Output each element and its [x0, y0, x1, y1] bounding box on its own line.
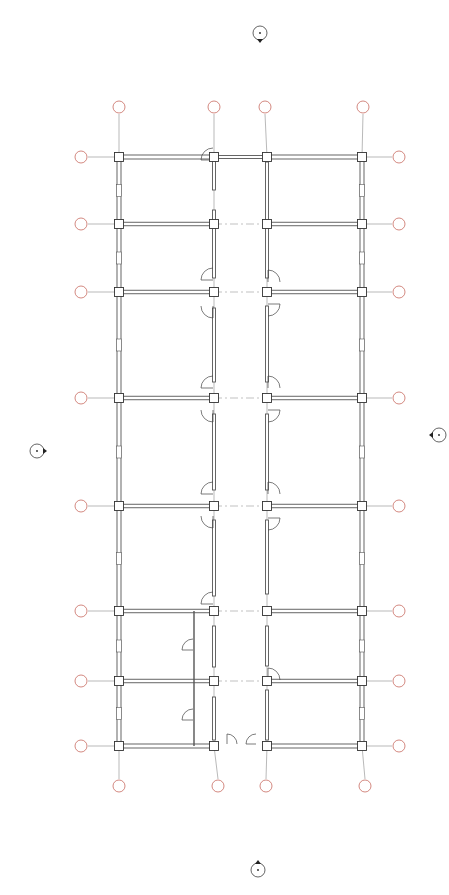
column: [115, 288, 124, 297]
wall: [267, 504, 362, 508]
column: [210, 742, 219, 751]
door-swing: [201, 306, 213, 318]
wall: [119, 679, 214, 683]
wall: [214, 156, 267, 159]
grid-bubble: [212, 780, 224, 792]
column: [358, 677, 367, 686]
wall: [267, 609, 362, 613]
window: [360, 553, 365, 565]
column: [263, 288, 272, 297]
column: [210, 394, 219, 403]
column: [358, 607, 367, 616]
wall: [266, 520, 269, 594]
grid-line-vertical: [362, 114, 363, 157]
column: [358, 502, 367, 511]
grid-bubble: [357, 101, 369, 113]
section-marker-arrow: [43, 448, 47, 454]
wall: [266, 306, 269, 382]
window: [117, 446, 122, 458]
wall: [119, 222, 214, 226]
grid-bubble: [75, 392, 87, 404]
wall: [213, 697, 216, 740]
grid-bubble: [260, 780, 272, 792]
column: [358, 394, 367, 403]
window: [360, 252, 365, 264]
section-markers: [30, 26, 446, 877]
section-marker-bottom: [251, 860, 265, 877]
grid-bubble: [393, 500, 405, 512]
wall: [119, 155, 214, 159]
door-swing: [268, 410, 280, 422]
wall: [267, 155, 362, 159]
grid-bubble: [75, 286, 87, 298]
column: [358, 742, 367, 751]
section-marker-arrow: [255, 860, 261, 864]
window: [117, 553, 122, 565]
section-marker-arrow: [429, 432, 433, 438]
section-marker-top: [253, 26, 267, 43]
grid-bubble: [75, 740, 87, 752]
entrance-door-swing: [246, 734, 256, 744]
column: [115, 607, 124, 616]
section-marker-dot: [257, 869, 259, 871]
grid-line-vertical: [362, 746, 365, 779]
wall: [213, 414, 216, 490]
grid-line-vertical: [266, 746, 267, 779]
grid-bubble: [75, 218, 87, 230]
column: [115, 153, 124, 162]
window: [117, 640, 122, 652]
wall: [267, 396, 362, 400]
column: [210, 288, 219, 297]
column: [358, 288, 367, 297]
grid-bubble: [393, 218, 405, 230]
floor-plan-drawing: [0, 0, 449, 895]
column: [263, 502, 272, 511]
door-swing: [201, 592, 213, 604]
window: [360, 640, 365, 652]
wall: [267, 290, 362, 294]
grid-bubble: [393, 675, 405, 687]
grid-bubble: [393, 286, 405, 298]
wall: [119, 744, 214, 748]
door-swing: [268, 304, 280, 316]
grid-bubbles: [75, 101, 405, 792]
grid-bubble: [75, 500, 87, 512]
column: [115, 394, 124, 403]
structural-columns: [115, 153, 367, 751]
grid-bubble: [75, 605, 87, 617]
window: [360, 185, 365, 197]
column: [115, 677, 124, 686]
grid-bubble: [259, 101, 271, 113]
corridor-centerlines: [214, 224, 267, 681]
column: [115, 220, 124, 229]
door-swing: [182, 709, 193, 720]
wall: [267, 222, 362, 226]
column: [263, 220, 272, 229]
wall: [213, 308, 216, 382]
window: [360, 446, 365, 458]
column: [210, 607, 219, 616]
grid-bubble: [393, 151, 405, 163]
wall: [119, 504, 214, 508]
wall: [266, 626, 269, 666]
grid-bubble: [113, 780, 125, 792]
door-swing: [268, 270, 280, 282]
column: [263, 394, 272, 403]
grid-bubble: [113, 101, 125, 113]
column: [263, 677, 272, 686]
grid-line-vertical: [214, 746, 218, 779]
grid-bubble: [359, 780, 371, 792]
entrance-door-swing: [227, 734, 237, 744]
door-swing: [201, 376, 213, 388]
door-swing: [268, 376, 280, 388]
column: [210, 502, 219, 511]
walls: [117, 155, 365, 748]
section-marker-arrow: [257, 39, 263, 43]
wall: [266, 414, 269, 490]
column: [210, 153, 219, 162]
section-marker-dot: [259, 32, 261, 34]
window: [117, 708, 122, 720]
column: [210, 220, 219, 229]
wall: [267, 744, 362, 748]
grid-bubble: [393, 605, 405, 617]
